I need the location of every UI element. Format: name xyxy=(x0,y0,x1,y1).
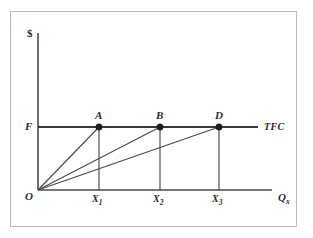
x-tick-label-1: X1 xyxy=(92,194,102,207)
ray-to-point-a xyxy=(38,127,99,190)
point-b-label: B xyxy=(156,110,163,121)
x-tick-label-2-sub: 2 xyxy=(160,198,164,207)
x-tick-label-3-sub: 3 xyxy=(219,198,223,207)
x-tick-label-3-main: X xyxy=(212,193,219,204)
point-a-label: A xyxy=(95,110,102,121)
data-point-a xyxy=(96,124,102,130)
point-d-label: D xyxy=(215,110,223,121)
tfc-curve-label: TFC xyxy=(264,122,284,132)
fixed-cost-level-label: F xyxy=(25,121,32,132)
ray-to-point-d xyxy=(38,127,219,190)
x-axis-label: Qx xyxy=(278,192,290,206)
y-axis-label: $ xyxy=(27,28,33,39)
x-tick-label-2: X2 xyxy=(153,194,163,207)
origin-label: O xyxy=(25,191,33,202)
x-tick-label-2-main: X xyxy=(153,193,160,204)
x-tick-label-3: X3 xyxy=(212,194,222,207)
data-point-d xyxy=(216,124,222,130)
x-tick-label-1-sub: 1 xyxy=(99,198,103,207)
x-tick-label-1-main: X xyxy=(92,193,99,204)
data-point-b xyxy=(157,124,163,130)
x-axis-label-sub: x xyxy=(286,197,290,206)
figure-root: $ Qx O F TFC A B D X1 X2 X3 xyxy=(0,0,313,238)
x-axis-label-main: Q xyxy=(278,191,286,203)
